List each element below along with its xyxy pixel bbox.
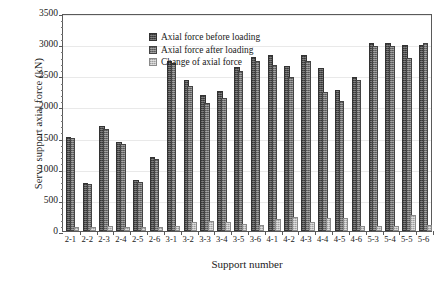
bar xyxy=(242,224,248,231)
bar xyxy=(187,86,193,231)
x-axis-title: Support number xyxy=(62,258,432,270)
legend-label: Axial force before loading xyxy=(161,32,260,42)
bar xyxy=(103,129,109,231)
x-tick-label: 5-6 xyxy=(411,234,437,244)
legend-swatch-icon xyxy=(149,58,157,66)
bar-group xyxy=(63,15,80,231)
bar xyxy=(360,226,366,231)
y-axis-tick-labels: 0500100015002000250030003500 xyxy=(22,0,58,289)
legend-label: Axial force after loading xyxy=(161,45,253,55)
bar xyxy=(275,219,281,231)
y-tick-label: 1500 xyxy=(24,134,58,143)
bar xyxy=(376,226,382,231)
bar xyxy=(175,226,181,231)
chart-legend: Axial force before loadingAxial force af… xyxy=(149,31,299,69)
bar-group xyxy=(315,15,332,231)
legend-item: Change of axial force xyxy=(149,56,299,69)
bar-group xyxy=(80,15,97,231)
bar xyxy=(87,184,93,231)
bar-group xyxy=(113,15,130,231)
bar xyxy=(154,159,160,231)
bar xyxy=(339,101,345,231)
y-tick-label: 2000 xyxy=(24,102,58,111)
bar xyxy=(406,58,412,231)
y-tick-label: 1000 xyxy=(24,165,58,174)
plot-area: Axial force before loadingAxial force af… xyxy=(62,14,432,232)
bar-group xyxy=(366,15,383,231)
bar xyxy=(124,227,130,231)
bar-group xyxy=(97,15,114,231)
bar-group xyxy=(298,15,315,231)
bar-group xyxy=(416,15,433,231)
chart-figure: Servo support axial force (kN) 050010001… xyxy=(0,0,444,289)
bar xyxy=(372,46,378,231)
bar xyxy=(272,65,278,231)
x-axis-tick-labels: 2-12-22-32-42-52-63-13-23-33-43-53-64-14… xyxy=(62,234,432,252)
bar-group xyxy=(399,15,416,231)
bar xyxy=(288,77,294,231)
bar xyxy=(238,71,244,231)
bar xyxy=(204,103,210,231)
bar xyxy=(137,182,143,231)
bar xyxy=(423,43,429,231)
bar xyxy=(259,225,265,231)
bar-group xyxy=(130,15,147,231)
bar xyxy=(326,218,332,231)
bar xyxy=(393,226,399,231)
bar xyxy=(389,46,395,231)
bar xyxy=(221,98,227,231)
y-tick-label: 500 xyxy=(24,196,58,205)
bar-group xyxy=(349,15,366,231)
bar xyxy=(292,217,298,231)
bar xyxy=(356,80,362,231)
bar xyxy=(343,218,349,231)
legend-item: Axial force before loading xyxy=(149,31,299,44)
bar xyxy=(305,61,311,231)
legend-item: Axial force after loading xyxy=(149,44,299,57)
legend-swatch-icon xyxy=(149,46,157,54)
bar-group xyxy=(332,15,349,231)
bar-group xyxy=(383,15,400,231)
bar xyxy=(225,222,231,231)
legend-swatch-icon xyxy=(149,33,157,41)
y-tick-label: 3500 xyxy=(24,9,58,18)
bar xyxy=(322,92,328,231)
legend-label: Change of axial force xyxy=(161,57,242,67)
bar xyxy=(208,221,214,231)
bar xyxy=(255,61,261,231)
bar xyxy=(191,222,197,231)
y-tick-label: 3000 xyxy=(24,40,58,49)
bar xyxy=(90,227,96,231)
bar xyxy=(410,215,416,231)
bar xyxy=(158,227,164,231)
bar xyxy=(70,138,76,231)
bar xyxy=(74,227,80,231)
bar xyxy=(120,144,126,231)
y-tick-label: 0 xyxy=(24,227,58,236)
bar xyxy=(107,226,113,231)
bar xyxy=(309,222,315,231)
bar xyxy=(141,227,147,231)
bar xyxy=(427,225,433,231)
y-tick-label: 2500 xyxy=(24,71,58,80)
bar xyxy=(171,63,177,231)
